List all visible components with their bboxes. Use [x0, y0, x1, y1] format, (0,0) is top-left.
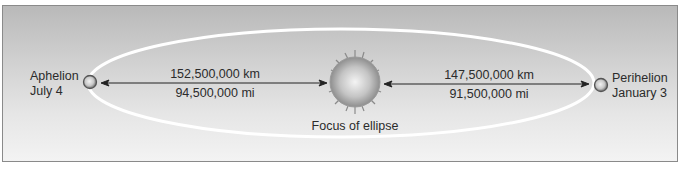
- sun-label: Focus of ellipse: [290, 119, 420, 134]
- perihelion-mi: 91,500,000 mi: [424, 87, 554, 102]
- perihelion-label: Perihelion January 3: [612, 71, 668, 101]
- perihelion-km: 147,500,000 km: [424, 68, 554, 83]
- perihelion-title: Perihelion: [612, 71, 668, 86]
- aphelion-date: July 4: [30, 84, 79, 99]
- perihelion-date: January 3: [612, 86, 668, 101]
- orbit-diagram: [0, 0, 681, 170]
- aphelion-mi: 94,500,000 mi: [150, 86, 280, 101]
- aphelion-title: Aphelion: [30, 69, 79, 84]
- aphelion-km: 152,500,000 km: [150, 67, 280, 82]
- sun-icon: [330, 57, 380, 107]
- aphelion-label: Aphelion July 4: [30, 69, 79, 99]
- earth-aphelion-icon: [84, 76, 97, 89]
- earth-perihelion-icon: [595, 79, 608, 92]
